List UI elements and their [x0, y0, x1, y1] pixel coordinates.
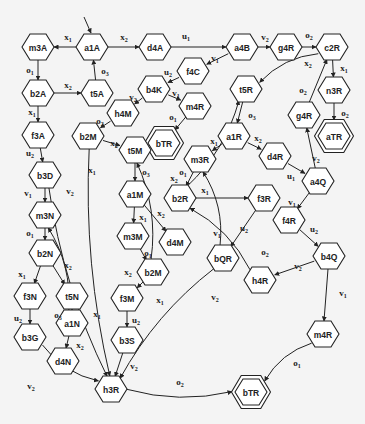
state-node-f4R: f4R [273, 207, 305, 233]
state-node-a1R: a1R [218, 123, 250, 149]
edge-label: v1 [288, 197, 296, 208]
state-label: t5M [128, 146, 143, 156]
state-label: bQR [214, 254, 232, 264]
edge-label: o2 [261, 247, 269, 258]
edge-label: x1 [201, 185, 209, 196]
state-node-b3G: b3G [14, 324, 46, 350]
edge-label: v1 [172, 88, 180, 99]
edge-label: x1 [93, 309, 101, 320]
state-label: d4R [267, 152, 283, 162]
edge-a1M-to-m3M [134, 207, 135, 223]
state-label: f3A [31, 131, 45, 141]
state-label: a1R [226, 132, 242, 142]
edge-label: o1 [26, 228, 34, 239]
edge-label: v2 [129, 92, 137, 103]
edge-label: u2 [164, 67, 172, 78]
diagram-canvas: a1Am3Ad4Aa4Bg4Rc2Rb2At5Af4Cb4Km4Rh4Mn3Rt… [0, 0, 365, 424]
edge-label: x1 [28, 107, 36, 118]
edge-label: v2 [130, 361, 138, 372]
state-label: b4K [146, 85, 163, 95]
state-label: t5N [65, 292, 79, 302]
state-label: b3D [37, 171, 53, 181]
state-label: d4A [147, 43, 163, 53]
state-label: f3N [23, 292, 37, 302]
edge-label: v2 [27, 381, 35, 392]
state-label: b3G [22, 333, 39, 343]
state-node-b2A: b2A [22, 80, 54, 106]
state-node-g4R_mid: g4R [288, 102, 320, 128]
edge-a4Q-to-f4R [297, 192, 309, 209]
edge-label: u2 [310, 224, 318, 235]
state-label: b2M [145, 268, 162, 278]
edge-label: x2 [76, 340, 84, 351]
state-node-a1M: a1M [119, 181, 151, 207]
edge-label: x2 [110, 138, 118, 149]
state-node-f3M: f3M [111, 285, 143, 311]
state-label: n3R [326, 86, 342, 96]
state-node-d4A: d4A [139, 34, 171, 60]
edge-label: v2 [66, 186, 74, 197]
state-label: b2R [172, 194, 188, 204]
state-label: m3A [29, 43, 47, 53]
initial-state-arrow-icon [84, 17, 91, 33]
edge-b2N-to-f3N [34, 266, 40, 284]
edge-f3A-to-b3D [40, 148, 42, 162]
state-label: t5A [90, 89, 104, 99]
edge-label: o1 [179, 167, 187, 178]
edge-label: o1 [144, 248, 152, 259]
state-node-b2N: b2N [29, 240, 61, 266]
edge-label: v2 [294, 261, 302, 272]
edge-label: x1 [64, 32, 72, 43]
edge-b4Q-to-m4R_low [324, 269, 328, 321]
state-node-bTR_top: bTR [145, 127, 184, 160]
state-node-f3A: f3A [22, 122, 54, 148]
state-node-h4R: h4R [244, 267, 276, 293]
state-node-f4C: f4C [177, 58, 209, 84]
state-label: m4R [314, 330, 332, 340]
state-node-t5A: t5A [81, 80, 113, 106]
edge-label: o1 [26, 65, 34, 76]
edge-b2N-to-t5N [52, 265, 64, 285]
edge-label: x2 [170, 173, 178, 184]
edge-label: v2 [211, 292, 219, 303]
edge-label: o1 [293, 358, 301, 369]
state-label: g4R [278, 43, 294, 53]
edge-label: u2 [240, 223, 248, 234]
state-label: b4Q [321, 252, 338, 262]
state-label: a1A [84, 43, 100, 53]
edge-label: x2 [120, 32, 128, 43]
state-node-aTR: aTR [315, 120, 354, 153]
state-label: b2A [30, 89, 46, 99]
edge-label: o3 [54, 310, 62, 321]
edge-m4R_low-to-bTR_low [265, 343, 312, 381]
state-label: b2M [80, 132, 97, 142]
state-label: m3N [36, 211, 54, 221]
state-node-m4R_top: m4R [179, 93, 211, 119]
edge-c2R-to-n3R [333, 60, 334, 77]
state-node-t5R: t5R [230, 76, 262, 102]
state-label: f3R [257, 194, 271, 204]
state-node-b4Q: b4Q [313, 243, 345, 269]
edge-label: x2 [124, 267, 132, 278]
state-label: aTR [326, 132, 342, 142]
edge-label: x1 [18, 269, 26, 280]
state-label: a1N [64, 319, 80, 329]
state-label: d4N [55, 357, 71, 367]
edge-label: x2 [254, 133, 262, 144]
edge-t5A-to-a1A [93, 60, 95, 80]
state-node-d4N: d4N [47, 348, 79, 374]
edge-label: v1 [339, 288, 347, 299]
edge-label: o2 [341, 108, 349, 119]
edge-label: u2 [14, 313, 22, 324]
edge-label: o1 [169, 112, 177, 123]
edge-label: o2 [176, 377, 184, 388]
edge-h3R-to-bTR_low [127, 389, 232, 397]
state-node-b2M_low: b2M [137, 259, 169, 285]
state-node-b3D: b3D [29, 162, 61, 188]
edge-label: x2 [157, 208, 165, 219]
state-label: h4R [252, 276, 268, 286]
edge-label: o3 [101, 66, 109, 77]
edge-label: x1 [156, 295, 164, 306]
state-node-n3R: n3R [318, 77, 350, 103]
edge-label: x1 [139, 212, 147, 223]
